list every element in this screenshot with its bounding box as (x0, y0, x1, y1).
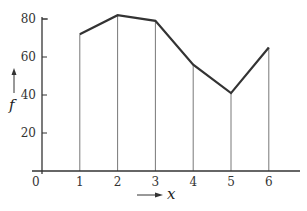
data-line (80, 15, 269, 93)
x-tick-label: 4 (189, 175, 197, 189)
y-ticks: 20406080 (21, 12, 47, 140)
ylabel: f (8, 96, 17, 114)
x-tick-label: 6 (265, 175, 273, 189)
xlabel: x (167, 185, 176, 203)
x-tick-label: 5 (227, 175, 235, 189)
arrowhead-up-icon (12, 68, 17, 75)
x-tick-label: 3 (152, 175, 160, 189)
y-tick-label: 20 (21, 126, 36, 140)
arrowhead-right-icon (155, 193, 163, 198)
origin-label: 0 (32, 175, 40, 189)
drop-lines (80, 15, 269, 171)
y-tick-label: 80 (21, 12, 36, 26)
x-tick-label: 2 (114, 175, 122, 189)
y-tick-label: 40 (21, 88, 36, 102)
y-tick-label: 60 (21, 50, 36, 64)
y-axis-label: f (8, 68, 17, 114)
x-tick-label: 1 (76, 175, 84, 189)
line-chart: 20406080 123456 0 f x (0, 0, 307, 211)
